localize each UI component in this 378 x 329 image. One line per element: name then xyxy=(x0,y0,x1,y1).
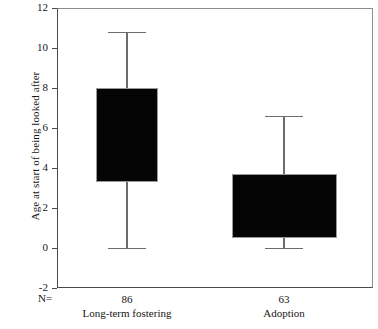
y-axis-tick-mark xyxy=(52,8,57,9)
y-axis-tick-mark xyxy=(52,48,57,49)
group-sample-size: 86 xyxy=(37,292,217,306)
box-plot-figure: Age at start of being looked after 12108… xyxy=(0,0,378,329)
upper-whisker-line xyxy=(126,32,127,88)
y-axis-tick-label: 2 xyxy=(43,200,49,215)
y-axis-tick-label: 0 xyxy=(43,240,49,255)
interquartile-box xyxy=(96,88,158,182)
y-axis-tick-label: 8 xyxy=(43,80,49,95)
lower-whisker-line xyxy=(126,182,127,248)
y-axis-tick-mark xyxy=(52,128,57,129)
group-category-label: Adoption xyxy=(194,306,374,321)
y-axis-tick-mark xyxy=(52,208,57,209)
group-sample-size: 63 xyxy=(194,292,374,306)
y-axis-title: Age at start of being looked after xyxy=(29,26,41,266)
y-axis-tick-mark xyxy=(52,288,57,289)
x-axis-group-2: 63Adoption xyxy=(194,292,374,321)
interquartile-box xyxy=(232,174,337,238)
y-axis-tick-label: 10 xyxy=(37,40,48,55)
y-axis-tick-mark xyxy=(52,248,57,249)
y-axis-tick-mark xyxy=(52,88,57,89)
upper-whisker-cap xyxy=(108,32,146,33)
lower-whisker-cap xyxy=(108,248,146,249)
y-axis-tick-mark xyxy=(52,168,57,169)
y-axis-tick-label: 6 xyxy=(43,120,49,135)
upper-whisker-cap xyxy=(265,116,303,117)
lower-whisker-line xyxy=(283,238,284,248)
upper-whisker-line xyxy=(283,116,284,174)
group-category-label: Long-term fostering xyxy=(37,306,217,321)
y-axis-tick-label: 4 xyxy=(43,160,49,175)
y-axis-tick-label: 12 xyxy=(37,0,48,15)
x-axis-group-1: 86Long-term fostering xyxy=(37,292,217,321)
lower-whisker-cap xyxy=(265,248,303,249)
